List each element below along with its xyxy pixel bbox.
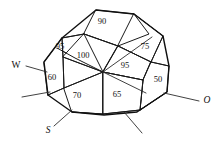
facet-value-lower-center: 65 [113, 89, 122, 99]
facet-value-upper-right: 75 [141, 41, 150, 51]
facet-value-left: 60 [48, 72, 57, 82]
leader-ost-line [164, 93, 199, 101]
direction-label-south: S [46, 125, 51, 135]
facet-value-upper-left: 95 [56, 41, 65, 51]
leader-west-lower-line [22, 92, 50, 97]
figure-container: 90 95 100 75 95 60 50 70 65 W S O [0, 0, 221, 150]
direction-label-ost: O [204, 95, 211, 105]
facet-value-center-right: 95 [121, 60, 130, 70]
direction-label-west: W [12, 60, 21, 70]
facet-lower-left-shape [64, 72, 103, 114]
facet-value-lower-left: 70 [73, 90, 82, 100]
facet-value-top: 90 [98, 16, 107, 26]
polyhedron-diagram: 90 95 100 75 95 60 50 70 65 W S O [0, 0, 221, 150]
leader-west-line [26, 66, 47, 72]
facet-value-right: 50 [154, 74, 163, 84]
facet-value-center-upper: 100 [77, 50, 90, 60]
leader-bottom-mid-line [124, 112, 142, 133]
leader-south-line [54, 110, 72, 126]
